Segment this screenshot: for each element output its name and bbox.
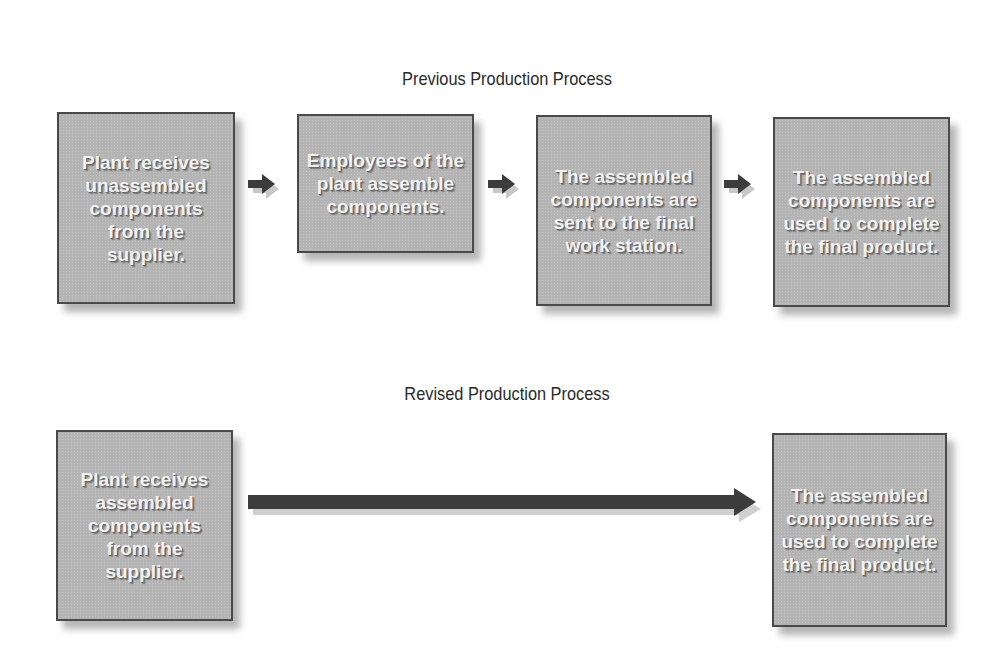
arrow-right-icon <box>722 172 758 200</box>
revised-step-1: Plant receives assembled components from… <box>56 430 233 621</box>
revised-step-1-label: Plant receives assembled components from… <box>66 468 224 583</box>
arrow-right-icon <box>486 172 522 200</box>
previous-step-3: The assembled components are sent to the… <box>536 115 712 306</box>
previous-step-4: The assembled components are used to com… <box>773 117 950 307</box>
revised-step-2-label: The assembled components are used to com… <box>776 484 944 576</box>
previous-step-2: Employees of the plant assemble componen… <box>297 114 474 253</box>
previous-step-4-label: The assembled components are used to com… <box>778 166 946 258</box>
previous-step-1-label: Plant receives unassembled components fr… <box>67 151 225 266</box>
previous-step-3-label: The assembled components are sent to the… <box>545 165 703 257</box>
arrow-right-icon <box>246 172 282 200</box>
revised-step-2: The assembled components are used to com… <box>772 433 947 627</box>
revised-process-title: Revised Production Process <box>404 383 609 405</box>
previous-step-1: Plant receives unassembled components fr… <box>57 112 235 304</box>
previous-process-title: Previous Production Process <box>402 68 612 90</box>
previous-step-2-label: Employees of the plant assemble componen… <box>302 149 470 218</box>
long-arrow-right-icon <box>244 484 764 524</box>
